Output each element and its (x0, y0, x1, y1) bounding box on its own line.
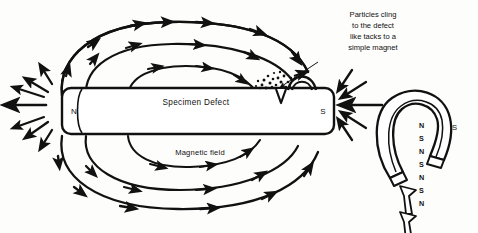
annotation-line-1: Particles cling (350, 10, 397, 19)
tack-label-0: N (419, 121, 424, 130)
magnetic-particle-inspection-diagram: N S Specimen Defect Magnetic field Parti… (0, 0, 478, 233)
tack-label-1: S (419, 134, 424, 143)
tack-label-5: S (419, 186, 424, 195)
horseshoe-pole-label: S (452, 123, 457, 132)
label-layer: N S Specimen Defect Magnetic field Parti… (0, 0, 478, 233)
annotation-line-2: to the defect (352, 21, 395, 30)
tack-label-6: N (419, 199, 424, 208)
tack-label-3: S (419, 160, 424, 169)
annotation-line-3: like tacks to a (350, 32, 397, 41)
annotation-line-4: simple magnet (348, 43, 398, 52)
north-pole-label: N (71, 107, 77, 116)
south-pole-label: S (320, 107, 325, 116)
magnetic-field-label: Magnetic field (175, 148, 225, 157)
specimen-label: Specimen Defect (163, 98, 230, 107)
tack-label-2: N (419, 147, 424, 156)
tack-label-4: N (419, 173, 424, 182)
